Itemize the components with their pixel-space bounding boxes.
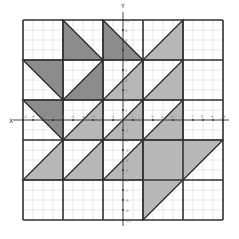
x-tick-label: 2 — [141, 115, 143, 119]
y-tick-label: -1 — [125, 129, 129, 133]
y-tick-label: 1 — [125, 109, 127, 113]
y-tick — [122, 19, 124, 21]
y-tick-label: 2 — [125, 99, 127, 103]
y-tick — [122, 209, 124, 211]
x-tick — [72, 119, 74, 121]
y-tick — [122, 49, 124, 51]
x-tick-label: 9 — [211, 115, 213, 119]
y-tick — [122, 219, 124, 221]
y-tick — [122, 59, 124, 61]
y-tick — [122, 139, 124, 141]
x-tick-label: 1 — [131, 115, 133, 119]
y-tick — [122, 99, 124, 101]
x-tick — [82, 119, 84, 121]
x-tick — [22, 119, 24, 121]
x-tick — [152, 119, 154, 121]
y-tick-label: -9 — [125, 209, 129, 213]
y-tick — [122, 69, 124, 71]
y-tick-label: -6 — [125, 179, 129, 183]
y-tick — [122, 39, 124, 41]
y-tick-label: -2 — [125, 139, 129, 143]
y-tick-label: -10 — [125, 219, 131, 223]
y-tick-label: 9 — [125, 29, 127, 33]
y-tick — [122, 199, 124, 201]
x-tick — [52, 119, 54, 121]
x-tick — [182, 119, 184, 121]
x-tick — [92, 119, 94, 121]
y-tick-label: -3 — [125, 149, 129, 153]
x-tick — [112, 119, 114, 121]
x-tick — [222, 119, 224, 121]
x-tick — [132, 119, 134, 121]
y-tick — [122, 159, 124, 161]
quilt-diagram: XY-10-9-8-7-6-5-4-3-2-112345678910109876… — [0, 0, 239, 239]
x-tick-label: 4 — [161, 115, 164, 119]
x-axis-label: X — [9, 117, 13, 124]
x-tick-label: 10 — [221, 115, 225, 119]
y-axis-label: Y — [120, 2, 125, 9]
y-tick-label: 7 — [125, 49, 127, 53]
x-tick-label: 3 — [151, 115, 153, 119]
y-tick-label: -7 — [125, 189, 129, 193]
y-tick-label: 5 — [125, 69, 127, 73]
y-tick — [122, 109, 124, 111]
x-tick-label: -3 — [91, 115, 95, 119]
x-tick — [62, 119, 64, 121]
x-tick-label: -10 — [21, 115, 27, 119]
x-tick-label: -5 — [71, 115, 75, 119]
y-tick — [122, 129, 124, 131]
y-tick — [122, 89, 124, 91]
x-tick — [172, 119, 174, 121]
y-tick — [122, 169, 124, 171]
x-tick-label: 7 — [191, 115, 193, 119]
x-tick — [42, 119, 44, 121]
y-tick-label: 8 — [125, 39, 127, 43]
x-tick-label: -9 — [31, 115, 35, 119]
x-tick — [32, 119, 34, 121]
x-tick-label: -6 — [61, 115, 65, 119]
x-tick — [162, 119, 164, 121]
y-tick-label: 6 — [125, 59, 127, 63]
y-tick-label: 3 — [125, 89, 127, 93]
y-tick — [122, 179, 124, 181]
x-tick-label: -1 — [111, 115, 115, 119]
x-tick-label: -8 — [41, 115, 45, 119]
x-tick-label: 5 — [171, 115, 173, 119]
y-tick-label: -5 — [125, 169, 129, 173]
x-tick-label: 6 — [181, 115, 183, 119]
x-tick-label: -2 — [101, 115, 105, 119]
x-tick — [102, 119, 104, 121]
y-tick-label: -8 — [125, 199, 129, 203]
y-tick — [122, 189, 124, 191]
y-tick-label: 10 — [125, 19, 129, 23]
x-tick — [142, 119, 144, 121]
coordinate-grid: XY-10-9-8-7-6-5-4-3-2-112345678910109876… — [0, 0, 239, 239]
x-tick-label: -7 — [51, 115, 55, 119]
x-tick-label: 8 — [201, 115, 203, 119]
x-tick — [202, 119, 204, 121]
y-tick — [122, 79, 124, 81]
x-tick — [192, 119, 194, 121]
y-tick — [122, 29, 124, 31]
y-tick — [122, 149, 124, 151]
x-tick — [212, 119, 214, 121]
